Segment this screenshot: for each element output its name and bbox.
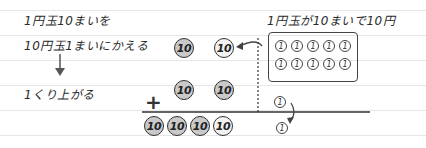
carrying-diagram: 1円玉10まいを 10円玉1まいにかえる 1くり上がる 1円玉が10まいで10円…: [0, 0, 426, 148]
diagram-strokes: [0, 0, 426, 148]
bring-down-arrow-icon: [287, 103, 294, 124]
down-arrow-icon: [55, 54, 65, 76]
